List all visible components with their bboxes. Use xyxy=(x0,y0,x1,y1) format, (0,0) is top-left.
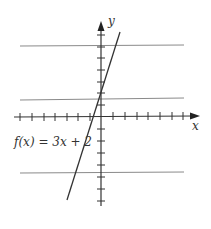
y-axis-label: y xyxy=(107,14,115,28)
horizontal-line-middle xyxy=(20,98,184,100)
y-axis xyxy=(97,21,105,206)
x-axis xyxy=(14,112,200,121)
graph-canvas: y x f(x) = 3x + 2 xyxy=(0,0,211,229)
horizontal-line-lower xyxy=(20,172,184,173)
function-label: f(x) = 3x + 2 xyxy=(13,135,92,149)
horizontal-line-upper xyxy=(20,45,184,46)
function-graph: y x f(x) = 3x + 2 xyxy=(0,0,211,229)
y-axis-arrow-icon xyxy=(98,21,105,31)
x-axis-label: x xyxy=(192,119,199,133)
